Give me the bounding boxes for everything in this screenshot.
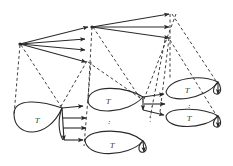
arrow: [143, 94, 164, 97]
arrow: [62, 108, 64, 140]
root-fanout: [18, 27, 88, 62]
loop-a: T: [14, 102, 86, 140]
arrow: [143, 110, 164, 115]
loop-path: [88, 88, 143, 111]
loop-label: T: [110, 142, 116, 150]
dashed-line: [84, 62, 91, 146]
dashed-line: [93, 27, 140, 98]
loop-label: T: [106, 98, 112, 106]
arrow: [92, 14, 169, 27]
dashed-line: [160, 38, 169, 112]
arrow: [62, 106, 83, 108]
loop-label: T: [35, 117, 41, 125]
loop-label: T: [185, 87, 191, 95]
ellipsis: :: [108, 118, 110, 126]
dashed-line: [88, 62, 143, 100]
tree-loop-diagram: T T : T T : T: [0, 0, 233, 166]
dashed-line: [172, 14, 218, 84]
arrow: [92, 27, 169, 38]
dashed-line: [60, 61, 87, 108]
dashed-line: [21, 45, 62, 108]
loop-path: [166, 109, 218, 126]
loop-e: T: [166, 109, 221, 127]
level1-fanout: [90, 14, 169, 38]
loop-b: T :: [88, 88, 165, 126]
loop-d: T :: [166, 78, 221, 110]
dotted-line: [150, 106, 152, 124]
loop-c: T: [85, 131, 146, 154]
loop-path: [166, 78, 218, 99]
loop-label: T: [187, 115, 193, 123]
loop-knot: [214, 82, 221, 94]
